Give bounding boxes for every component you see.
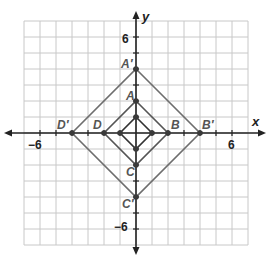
vertex-point — [149, 130, 155, 136]
axes: x y −6 6 6 −6 — [4, 9, 266, 255]
vertex-point — [165, 130, 171, 136]
vertex-point — [133, 194, 139, 200]
vertex-point — [133, 66, 139, 72]
tick-label-y-pos6: 6 — [122, 32, 129, 46]
label-D-prime: D′ — [57, 118, 70, 132]
vertex-point — [117, 130, 123, 136]
x-axis-right-arrow-icon — [258, 130, 266, 137]
tick-label-x-neg6: −6 — [28, 138, 42, 152]
y-axis-label: y — [141, 9, 150, 24]
label-A: A — [125, 89, 135, 103]
tick-label-y-neg6: −6 — [114, 220, 128, 234]
y-axis-down-arrow-icon — [133, 247, 140, 255]
label-B-prime: B′ — [202, 118, 215, 132]
tick-label-x-pos6: 6 — [228, 138, 235, 152]
vertex-point — [133, 114, 139, 120]
label-C: C — [126, 165, 135, 179]
x-axis-label: x — [251, 114, 260, 129]
label-A-prime: A′ — [120, 57, 134, 71]
vertex-point — [133, 146, 139, 152]
label-C-prime: C′ — [122, 197, 135, 211]
vertex-point — [69, 130, 75, 136]
label-D: D — [93, 118, 102, 132]
vertex-point — [101, 130, 107, 136]
label-B: B — [171, 118, 180, 132]
coordinate-plane: x y −6 6 6 −6 A′ A B B′ D′ D C C′ — [0, 0, 270, 261]
x-axis-left-arrow-icon — [4, 130, 12, 137]
y-axis-up-arrow-icon — [133, 11, 140, 19]
